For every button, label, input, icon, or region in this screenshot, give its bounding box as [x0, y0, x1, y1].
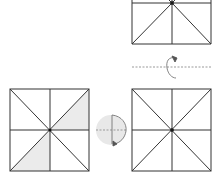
flip-indicator [132, 56, 211, 78]
rotate-indicator [96, 115, 126, 146]
left-square [10, 89, 89, 171]
top-square [132, 0, 211, 44]
center-point-icon [49, 129, 52, 132]
origami-diagram [0, 0, 222, 192]
right-square [132, 89, 211, 171]
center-point-icon [171, 129, 174, 132]
center-point-icon [171, 2, 174, 5]
